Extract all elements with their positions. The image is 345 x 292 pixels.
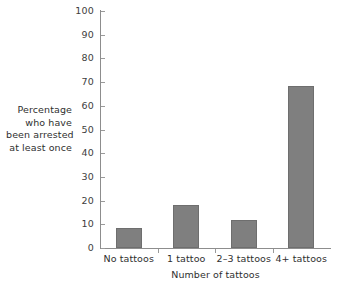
y-tick-label: 100: [0, 6, 94, 16]
x-axis-title: Number of tattoos: [100, 269, 331, 280]
y-tick-label: 50: [0, 125, 94, 135]
y-tick-label: 30: [0, 172, 94, 182]
y-tick-label: 90: [0, 30, 94, 40]
y-tick-label: 10: [0, 219, 94, 229]
y-tick-mark: [101, 248, 105, 249]
y-tick-label: 40: [0, 148, 94, 158]
bar: [173, 205, 199, 248]
x-category-label: 4+ tattoos: [273, 253, 331, 265]
plot-area: [100, 11, 330, 248]
y-tick-label: 70: [0, 77, 94, 87]
bar-chart-figure: Percentage who have been arrested at lea…: [0, 0, 345, 292]
x-category-label: No tattoos: [100, 253, 158, 265]
x-category-label: 2–3 tattoos: [215, 253, 273, 265]
bar: [116, 228, 142, 248]
y-tick-label: 0: [0, 243, 94, 253]
bar: [231, 220, 257, 248]
y-tick-label: 80: [0, 53, 94, 63]
x-category-label: 1 tattoo: [158, 253, 216, 265]
y-tick-label: 60: [0, 101, 94, 111]
bar: [288, 86, 314, 248]
y-tick-label: 20: [0, 196, 94, 206]
